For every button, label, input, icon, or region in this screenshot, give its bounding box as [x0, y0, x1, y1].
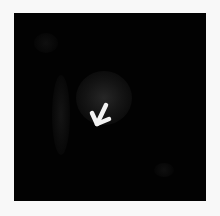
dark-image-panel — [14, 13, 206, 201]
arrow-annotation-icon — [14, 13, 206, 201]
image-frame — [0, 0, 220, 216]
